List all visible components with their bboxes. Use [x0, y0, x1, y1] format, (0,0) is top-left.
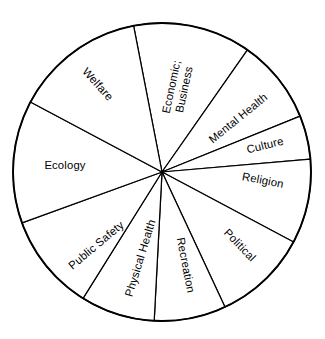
label-ecology-text: Ecology	[44, 159, 85, 171]
label-ecology: Ecology	[44, 159, 85, 171]
wheel-diagram: Economic; Business Mental Health Culture…	[0, 0, 325, 339]
sectors	[13, 23, 311, 321]
